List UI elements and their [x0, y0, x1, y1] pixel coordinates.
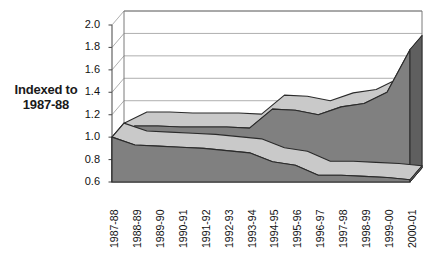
- x-tick-label: 2000-01: [406, 209, 418, 248]
- x-tick-label: 1994-95: [268, 209, 280, 248]
- x-tick-label: 1991-92: [200, 209, 212, 248]
- x-axis-ticks: 1987-881988-891989-901990-911991-921992-…: [0, 0, 425, 260]
- x-tick-label: 1989-90: [154, 209, 166, 248]
- x-tick-label: 1993-94: [246, 209, 258, 248]
- x-tick-label: 1997-98: [337, 209, 349, 248]
- x-tick-label: 1998-99: [360, 209, 372, 248]
- x-tick-label: 1992-93: [223, 209, 235, 248]
- chart-container: Indexed to 1987-88 2.01.81.61.41.21.00.8…: [0, 0, 425, 260]
- x-tick-label: 1987-88: [108, 209, 120, 248]
- x-tick-label: 1990-91: [177, 209, 189, 248]
- x-tick-label: 1999-00: [383, 209, 395, 248]
- x-tick-label: 1988-89: [131, 209, 143, 248]
- x-tick-label: 1996-97: [314, 209, 326, 248]
- x-tick-label: 1995-96: [291, 209, 303, 248]
